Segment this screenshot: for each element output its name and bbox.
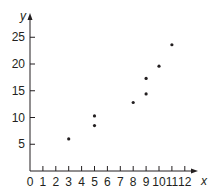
y-axis-label: y: [19, 9, 27, 23]
x-tick-label: 3: [65, 175, 72, 189]
x-tick-label: 1: [40, 175, 47, 189]
data-point: [93, 124, 96, 127]
data-point: [157, 65, 160, 68]
data-point: [145, 77, 148, 80]
y-tick-label: 15: [12, 84, 26, 98]
x-tick-label: 0: [27, 175, 34, 189]
scatter-chart: 0123456789101112510152025xy: [0, 0, 212, 193]
x-tick-label: 11: [166, 175, 179, 189]
x-tick-label: 10: [152, 175, 166, 189]
data-point: [93, 114, 96, 117]
y-tick-label: 5: [18, 137, 25, 151]
y-tick-label: 25: [12, 30, 26, 44]
y-axis-arrow-icon: [28, 13, 33, 20]
x-tick-label: 9: [143, 175, 150, 189]
x-tick-label: 4: [78, 175, 85, 189]
data-point: [67, 137, 70, 140]
data-point: [170, 43, 173, 46]
data-point: [145, 92, 148, 95]
data-point: [132, 101, 135, 104]
x-tick-label: 8: [130, 175, 137, 189]
axes: 0123456789101112510152025xy: [12, 9, 208, 189]
x-tick-label: 2: [52, 175, 59, 189]
data-points: [67, 43, 173, 140]
x-tick-label: 7: [117, 175, 124, 189]
y-tick-label: 10: [12, 111, 26, 125]
x-tick-label: 6: [104, 175, 111, 189]
x-axis-arrow-icon: [191, 169, 198, 174]
x-tick-label: 5: [91, 175, 98, 189]
x-axis-label: x: [200, 174, 208, 188]
x-tick-label: 12: [178, 175, 192, 189]
y-tick-label: 20: [12, 57, 26, 71]
